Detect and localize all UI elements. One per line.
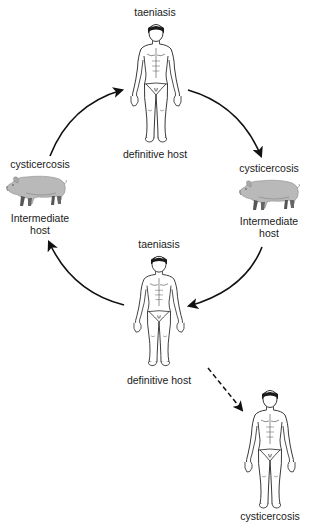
life-cycle-diagram <box>0 0 309 525</box>
arrow-right-pig-to-middle-human <box>189 247 262 306</box>
arrow-middle-human-to-left-pig <box>49 242 124 305</box>
left-pig-top-label: cysticercosis <box>0 158 80 170</box>
dashed-arrow-middle-human-to-bottom-human <box>208 368 242 410</box>
left-pig-bottom-label-line2: host <box>0 224 80 236</box>
top-human-figure-icon <box>131 25 182 143</box>
right-pig-bottom-label-line2: host <box>229 227 309 239</box>
arrow-top-human-to-right-pig <box>188 90 261 156</box>
left-pig-bottom-label-line1: Intermediate <box>0 212 80 224</box>
right-pig-bottom-label-line1: Intermediate <box>229 215 309 227</box>
bottom-human-figure-icon <box>245 391 296 509</box>
middle-human-figure-icon <box>134 256 185 365</box>
top-human-top-label: taeniasis <box>125 6 185 18</box>
right-pig-top-label: cysticercosis <box>229 162 309 174</box>
left-pig-icon <box>7 176 67 206</box>
right-pig-icon <box>240 180 300 210</box>
middle-human-top-label: taeniasis <box>129 238 189 250</box>
middle-human-bottom-label: definitive host <box>114 374 204 386</box>
bottom-human-bottom-label: cysticercosis <box>230 510 309 522</box>
arrow-left-pig-to-top-human <box>50 90 122 156</box>
top-human-bottom-label: definitive host <box>110 148 200 160</box>
